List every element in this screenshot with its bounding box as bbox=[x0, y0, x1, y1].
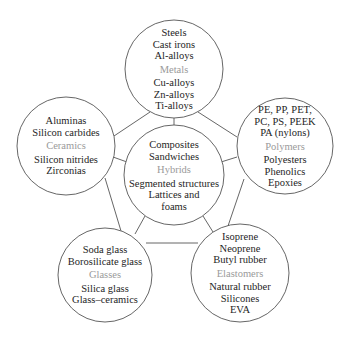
member-item: PE, PP, PET, bbox=[254, 104, 315, 116]
member-item: EVA bbox=[209, 304, 271, 316]
member-item: Silicon carbides bbox=[32, 127, 99, 139]
member-item: PA (nylons) bbox=[254, 127, 315, 139]
member-item: Phenolics bbox=[254, 165, 315, 177]
link-hybrids-elastomers bbox=[203, 216, 213, 232]
member-item: Polyesters bbox=[254, 154, 315, 166]
node-hybrids: CompositesSandwichesHybridsSegmented str… bbox=[129, 139, 219, 212]
member-item: Silicones bbox=[209, 292, 271, 304]
member-item: Ti-alloys bbox=[153, 100, 195, 112]
member-item: Segmented structures bbox=[129, 177, 219, 189]
category-label: Metals bbox=[153, 63, 195, 75]
member-item: Epoxies bbox=[254, 177, 315, 189]
member-item: Sandwiches bbox=[129, 150, 219, 162]
link-polymers-elastomers bbox=[228, 179, 244, 226]
category-label: Ceramics bbox=[32, 140, 99, 152]
category-label: Glasses bbox=[68, 269, 142, 281]
member-item: Butyl rubber bbox=[209, 254, 271, 266]
member-item: Cu-alloys bbox=[153, 77, 195, 89]
node-polymers: PE, PP, PET,PC, PS, PEEKPA (nylons)Polym… bbox=[254, 104, 315, 189]
member-item: PC, PS, PEEK bbox=[254, 115, 315, 127]
member-item: Al-alloys bbox=[153, 50, 195, 62]
member-item: Composites bbox=[129, 139, 219, 151]
member-item: Silica glass bbox=[68, 283, 142, 295]
member-item: Lattices and bbox=[129, 189, 219, 201]
link-ceramics-glasses bbox=[105, 178, 121, 231]
member-item: Neoprene bbox=[209, 242, 271, 254]
category-label: Elastomers bbox=[209, 267, 271, 279]
link-metals-polymers bbox=[198, 112, 237, 137]
node-metals: SteelsCast ironsAl-alloysMetalsCu-alloys… bbox=[153, 27, 195, 112]
member-item: foams bbox=[129, 200, 219, 212]
member-item: Zn-alloys bbox=[153, 88, 195, 100]
category-label: Polymers bbox=[254, 140, 315, 152]
member-item: Isoprene bbox=[209, 231, 271, 243]
member-item: Steels bbox=[153, 27, 195, 39]
link-metals-ceramics bbox=[114, 112, 150, 136]
member-item: Glass–ceramics bbox=[68, 294, 142, 306]
node-glasses: Soda glassBorosilicate glassGlassesSilic… bbox=[68, 244, 142, 306]
category-label: Hybrids bbox=[129, 164, 219, 176]
member-item: Cast irons bbox=[153, 38, 195, 50]
member-item: Borosilicate glass bbox=[68, 256, 142, 268]
link-polymers-hybrids bbox=[221, 157, 237, 162]
member-item: Silicon nitrides bbox=[32, 154, 99, 166]
member-item: Aluminas bbox=[32, 115, 99, 127]
member-item: Natural rubber bbox=[209, 281, 271, 293]
member-item: Zirconias bbox=[32, 165, 99, 177]
link-hybrids-glasses bbox=[135, 216, 145, 234]
member-item: Soda glass bbox=[68, 244, 142, 256]
node-elastomers: IsopreneNeopreneButyl rubberElastomersNa… bbox=[209, 231, 271, 316]
node-ceramics: AluminasSilicon carbidesCeramicsSilicon … bbox=[32, 115, 99, 177]
link-ceramics-hybrids bbox=[113, 157, 127, 162]
